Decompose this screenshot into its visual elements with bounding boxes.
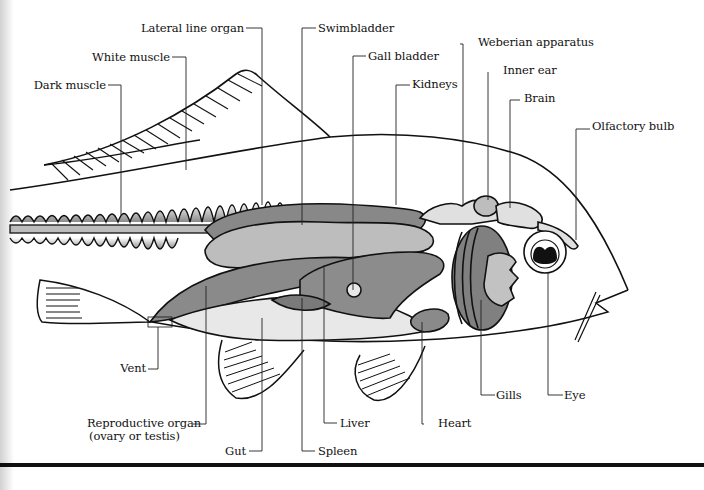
label-weberian-apparatus: Weberian apparatus	[478, 36, 594, 49]
label-reproductive-organ-note: (ovary or testis)	[89, 430, 180, 443]
label-gall-bladder: Gall bladder	[368, 50, 439, 63]
eye	[524, 231, 566, 273]
label-vent: Vent	[80, 362, 146, 375]
label-white-muscle: White muscle	[70, 51, 170, 64]
label-eye: Eye	[564, 389, 585, 402]
label-gills: Gills	[496, 389, 522, 402]
label-gut: Gut	[190, 445, 246, 458]
label-brain: Brain	[524, 92, 555, 105]
fish-anatomy-diagram: Lateral line organ Swimbladder White mus…	[0, 0, 704, 490]
label-heart: Heart	[438, 417, 471, 430]
bottom-rule	[0, 463, 704, 467]
page-edge-shadow	[0, 0, 14, 490]
label-inner-ear: Inner ear	[503, 64, 557, 77]
label-spleen: Spleen	[318, 445, 357, 458]
label-olfactory-bulb: Olfactory bulb	[592, 120, 674, 133]
label-lateral-line-organ: Lateral line organ	[120, 22, 244, 35]
label-liver: Liver	[340, 417, 370, 430]
label-dark-muscle: Dark muscle	[10, 79, 106, 92]
label-kidneys: Kidneys	[412, 78, 458, 91]
label-swimbladder: Swimbladder	[318, 22, 394, 35]
